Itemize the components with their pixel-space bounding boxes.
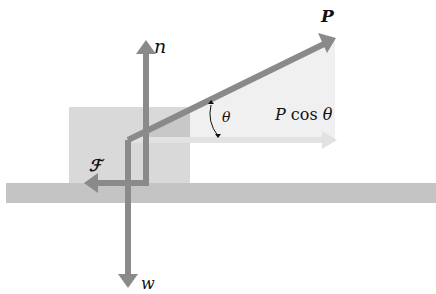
- angle-label: θ: [222, 110, 230, 124]
- weight-label: w: [141, 276, 155, 292]
- applied-force-label: P: [321, 8, 334, 25]
- component-angle: θ: [323, 105, 333, 124]
- horizontal-component-label: P cos θ: [275, 107, 332, 123]
- component-function: cos: [286, 105, 323, 124]
- ground-surface: [6, 183, 436, 203]
- normal-force-label: n: [154, 37, 166, 56]
- friction-force-label: ℱ: [89, 158, 102, 174]
- component-symbol: P: [275, 105, 286, 124]
- free-body-diagram: [0, 0, 436, 294]
